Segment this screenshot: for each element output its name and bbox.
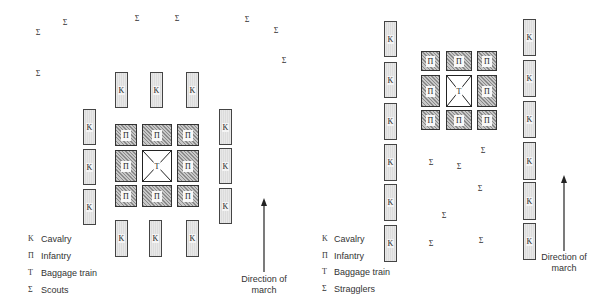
scout-marker: Σ bbox=[175, 14, 180, 23]
cavalry-unit: K bbox=[384, 225, 397, 262]
cavalry-unit: K bbox=[219, 188, 232, 224]
cavalry-unit: K bbox=[83, 189, 96, 225]
cavalry-unit: K bbox=[219, 109, 232, 145]
cavalry-unit: K bbox=[384, 62, 397, 98]
straggler-marker: Σ bbox=[481, 146, 486, 155]
straggler-marker: Σ bbox=[442, 211, 447, 220]
cavalry-unit: K bbox=[384, 21, 397, 57]
infantry-unit: Π bbox=[142, 185, 172, 207]
cavalry-unit: K bbox=[384, 103, 397, 140]
cavalry-unit: K bbox=[384, 144, 397, 181]
baggage-train: T bbox=[446, 75, 472, 107]
infantry-unit: Π bbox=[421, 75, 440, 107]
infantry-unit: Π bbox=[177, 185, 199, 207]
infantry-unit: Π bbox=[115, 185, 137, 207]
direction-arrow-icon bbox=[258, 198, 270, 272]
infantry-unit: Π bbox=[115, 124, 137, 146]
cavalry-unit: K bbox=[83, 149, 96, 185]
infantry-unit: Π bbox=[477, 110, 497, 130]
cavalry-unit: K bbox=[523, 182, 536, 220]
cavalry-unit: K bbox=[523, 142, 536, 180]
cavalry-unit: K bbox=[149, 220, 162, 257]
scout-marker: Σ bbox=[135, 14, 140, 23]
cavalry-unit: K bbox=[186, 220, 199, 257]
straggler-marker: Σ bbox=[457, 162, 462, 171]
infantry-unit: Π bbox=[421, 110, 440, 130]
cavalry-unit: K bbox=[150, 72, 163, 108]
direction-label: Direction of march bbox=[529, 252, 599, 274]
baggage-train: T bbox=[142, 150, 172, 182]
infantry-unit: Π bbox=[421, 51, 440, 71]
infantry-unit: Π bbox=[177, 124, 199, 146]
cavalry-unit: K bbox=[83, 109, 96, 145]
cavalry-unit: K bbox=[115, 72, 128, 108]
scout-marker: Σ bbox=[36, 28, 41, 37]
scout-marker: Σ bbox=[245, 15, 250, 24]
infantry-unit: Π bbox=[477, 75, 497, 107]
cavalry-unit: K bbox=[186, 72, 199, 108]
cavalry-unit: K bbox=[523, 101, 536, 138]
straggler-marker: Σ bbox=[479, 236, 484, 245]
infantry-unit: Π bbox=[446, 51, 472, 71]
scout-marker: Σ bbox=[282, 56, 287, 65]
cavalry-unit: K bbox=[115, 220, 128, 257]
infantry-unit: Π bbox=[446, 110, 472, 130]
direction-label: Direction of march bbox=[229, 274, 299, 296]
infantry-unit: Π bbox=[177, 150, 199, 182]
cavalry-unit: K bbox=[523, 19, 536, 56]
infantry-unit: Π bbox=[115, 150, 137, 182]
infantry-unit: Π bbox=[477, 51, 497, 71]
straggler-marker: Σ bbox=[478, 184, 483, 193]
straggler-marker: Σ bbox=[429, 158, 434, 167]
cavalry-unit: K bbox=[219, 148, 232, 184]
scout-marker: Σ bbox=[36, 69, 41, 78]
cavalry-unit: K bbox=[384, 184, 397, 221]
cavalry-unit: K bbox=[523, 60, 536, 97]
scout-marker: Σ bbox=[63, 18, 68, 27]
straggler-marker: Σ bbox=[429, 239, 434, 248]
infantry-unit: Π bbox=[142, 124, 172, 146]
direction-arrow-icon bbox=[558, 175, 570, 251]
scout-marker: Σ bbox=[274, 26, 279, 35]
